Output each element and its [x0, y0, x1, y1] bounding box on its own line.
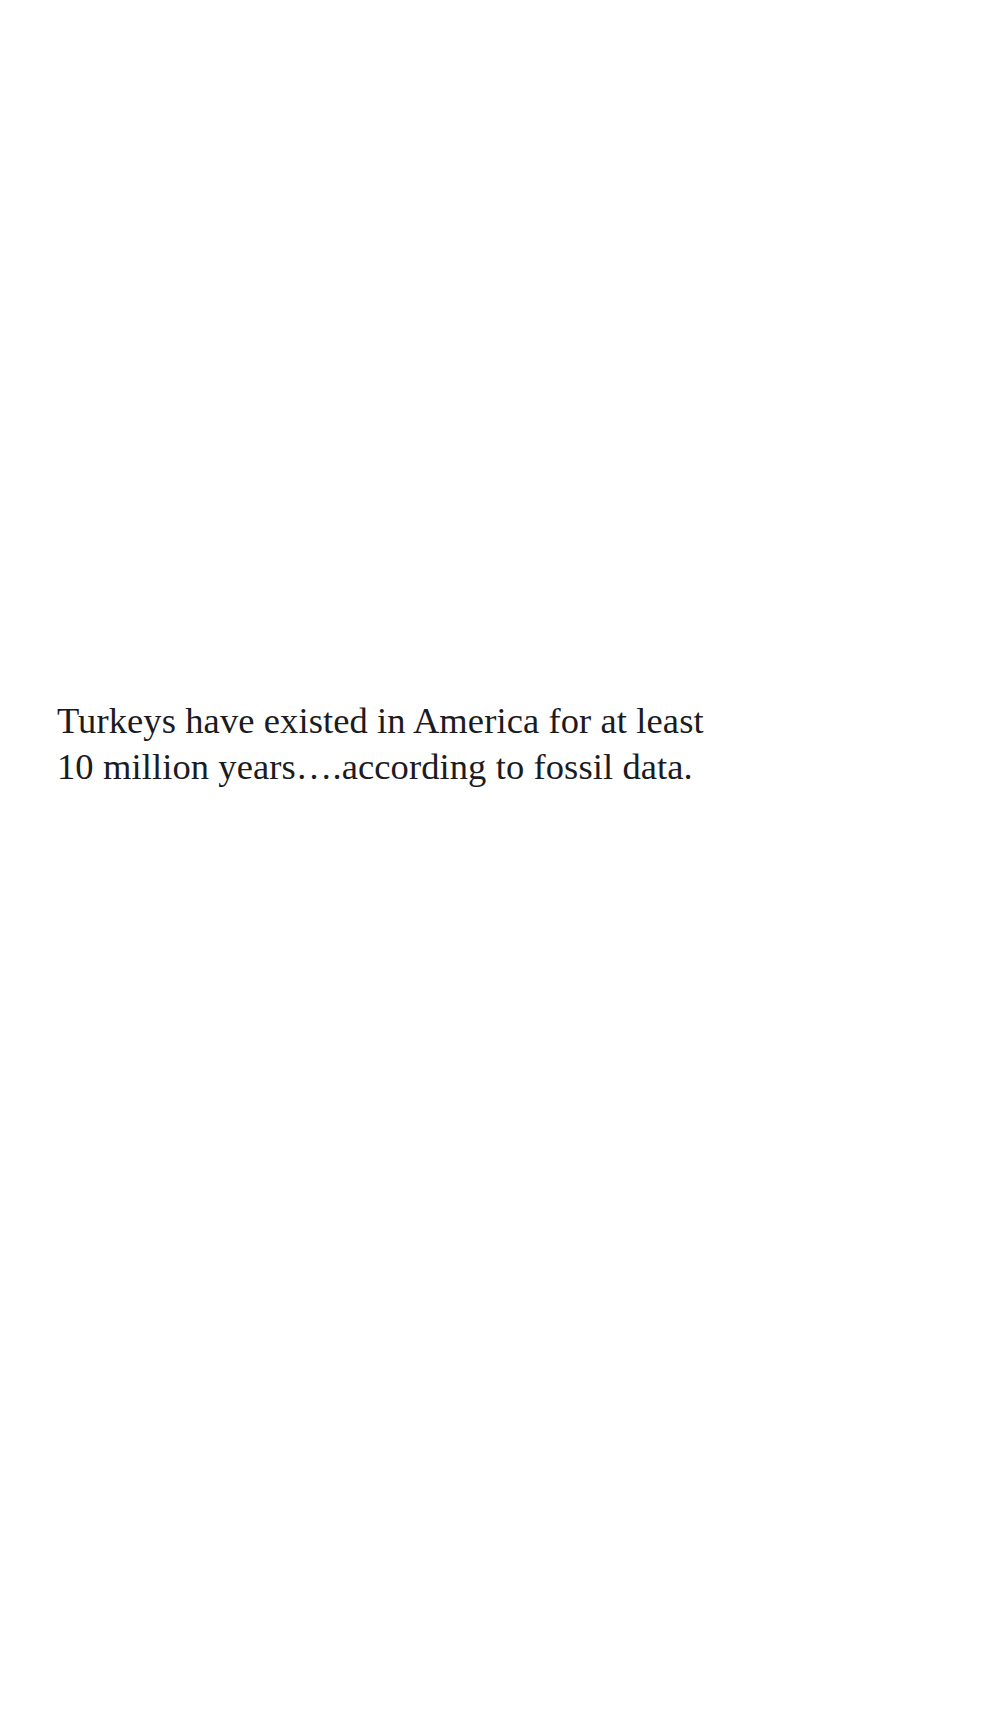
document-page: Turkeys have existed in America for at l… [0, 0, 989, 1726]
body-text-block: Turkeys have existed in America for at l… [57, 698, 757, 790]
body-text-line-2: 10 million years….according to fossil da… [57, 744, 757, 790]
body-text-line-1: Turkeys have existed in America for at l… [57, 698, 757, 744]
